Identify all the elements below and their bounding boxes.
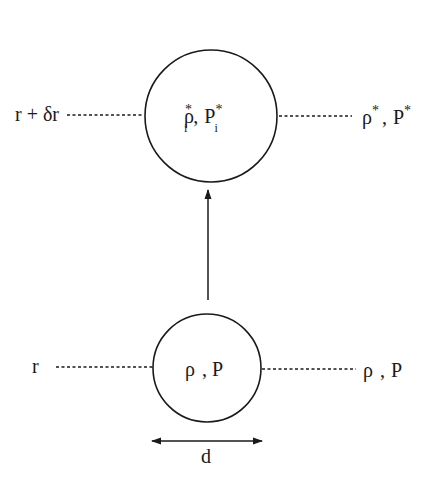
upper-ambient-label: ρ*,P* [362, 103, 411, 129]
bubble-displacement-diagram: r + δr ρ*i,P*i ρ*,P* r ρ,P ρ,P d [0, 0, 441, 484]
diameter-label: d [201, 445, 211, 467]
lower-ambient-label: ρ,P [363, 359, 402, 382]
lower-bubble [153, 314, 261, 422]
upper-bubble-label: ρ*i,P*i [184, 102, 222, 135]
lower-bubble-label: ρ,P [185, 358, 223, 381]
upper-radius-label: r + δr [15, 103, 59, 125]
lower-radius-label: r [32, 355, 39, 377]
